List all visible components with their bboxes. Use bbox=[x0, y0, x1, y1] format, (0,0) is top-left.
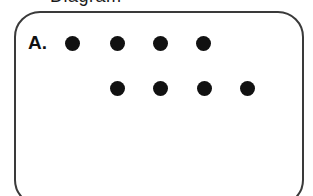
dot-bottom-row-1 bbox=[110, 81, 125, 96]
dot-top-row-1 bbox=[65, 36, 80, 51]
dot-top-row-2 bbox=[110, 36, 125, 51]
panel-label: A. bbox=[28, 33, 47, 53]
dot-bottom-row-2 bbox=[153, 81, 168, 96]
dot-bottom-row-3 bbox=[197, 81, 212, 96]
dot-top-row-4 bbox=[196, 36, 211, 51]
cut-off-caption: Diagram bbox=[50, 0, 122, 7]
dot-bottom-row-4 bbox=[240, 81, 255, 96]
dot-top-row-3 bbox=[153, 36, 168, 51]
